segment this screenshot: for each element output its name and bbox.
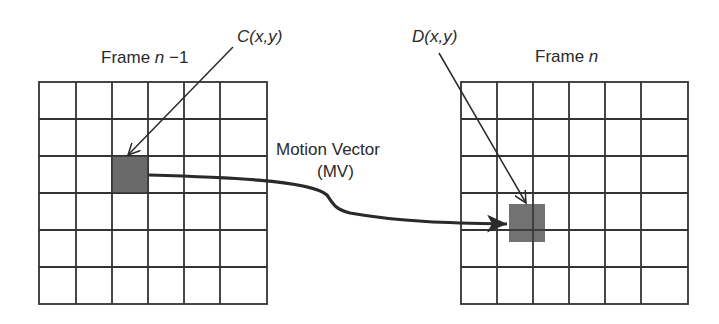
- frame-curr-label-var: n: [589, 47, 598, 66]
- block-d: [509, 204, 545, 242]
- frame-prev-label: Frame n −1: [101, 49, 188, 66]
- motion-vector-arrow: [149, 175, 507, 224]
- point-c-label: C(x,y): [237, 28, 282, 45]
- frame-curr-label: Frame n: [535, 48, 598, 65]
- frame-prev-label-suffix: −1: [164, 48, 188, 67]
- frame-prev-grid: [39, 82, 267, 304]
- frame-curr-grid: [461, 82, 688, 304]
- point-c-name: C: [237, 27, 249, 46]
- point-c-args: (x,y): [249, 27, 282, 46]
- frame-prev-label-var: n: [155, 48, 164, 67]
- motion-vector-label-line1: Motion Vector: [276, 141, 380, 158]
- point-d-label: D(x,y): [412, 28, 457, 45]
- motion-vector-label-line2: (MV): [317, 163, 354, 180]
- point-d-args: (x,y): [424, 27, 457, 46]
- frame-prev-label-text: Frame: [101, 48, 155, 67]
- frame-curr-label-text: Frame: [535, 47, 589, 66]
- block-c: [112, 156, 148, 193]
- d-pointer-arrow: [439, 53, 526, 203]
- point-d-name: D: [412, 27, 424, 46]
